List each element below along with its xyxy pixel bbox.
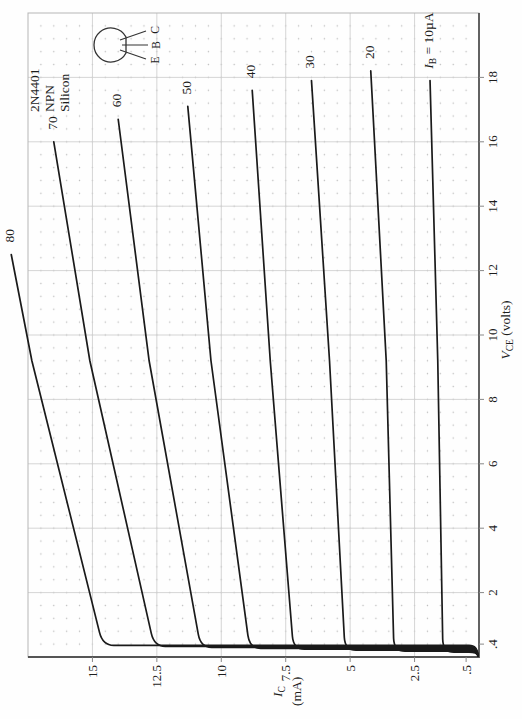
y-tick-label: .5 bbox=[459, 665, 474, 675]
x-tick-label: 16 bbox=[485, 135, 500, 149]
curve-label-ib-50: 50 bbox=[179, 81, 194, 95]
y-tick-label: 15 bbox=[85, 665, 100, 678]
curve-label-ib-40: 40 bbox=[243, 65, 258, 79]
device-type: NPN bbox=[42, 85, 57, 112]
x-tick-label: 14 bbox=[485, 199, 500, 213]
x-axis-unit: (volts) bbox=[498, 300, 513, 339]
x-tick-label: 2 bbox=[485, 589, 500, 596]
curve-label-ib-70: 70 bbox=[45, 116, 60, 130]
pin-label-e: E bbox=[149, 56, 161, 63]
y-axis-unit: (mA) bbox=[289, 677, 304, 706]
x-tick-label: 4 bbox=[485, 524, 500, 531]
x-axis-title: VCE (volts) bbox=[498, 300, 515, 359]
curve-label-ib-60: 60 bbox=[109, 94, 124, 108]
y-axis-sub: C bbox=[277, 686, 287, 692]
y-tick-label: 10 bbox=[214, 665, 229, 678]
curve-label-ib-80: 80 bbox=[2, 229, 17, 243]
device-part-number: 2N4401 bbox=[27, 69, 42, 113]
pin-label-b: B bbox=[150, 41, 162, 49]
y-tick-label: 12.5 bbox=[149, 665, 164, 688]
x-axis-sub: CE bbox=[505, 339, 515, 351]
curve-label-ib-30: 30 bbox=[302, 55, 317, 69]
y-axis-title: IC bbox=[270, 686, 287, 698]
x-tick-label: 6 bbox=[485, 460, 500, 467]
x-tick-label: 18 bbox=[485, 71, 500, 84]
characteristic-curves-chart: .424681012141618.52.557.51012.515IB = 10… bbox=[0, 0, 522, 719]
y-tick-label: 2.5 bbox=[407, 665, 422, 681]
pin-label-c: C bbox=[149, 26, 161, 34]
y-tick-label: 5 bbox=[343, 665, 358, 672]
curve-label-ib-20: 20 bbox=[362, 45, 377, 59]
rotated-chart-container: .424681012141618.52.557.51012.515IB = 10… bbox=[0, 0, 522, 719]
device-material: Silicon bbox=[57, 73, 72, 112]
scanned-figure-page: .424681012141618.52.557.51012.515IB = 10… bbox=[0, 0, 522, 719]
x-tick-label: 8 bbox=[485, 396, 500, 403]
x-tick-label: 12 bbox=[485, 264, 500, 277]
x-tick-label: .4 bbox=[485, 639, 500, 649]
